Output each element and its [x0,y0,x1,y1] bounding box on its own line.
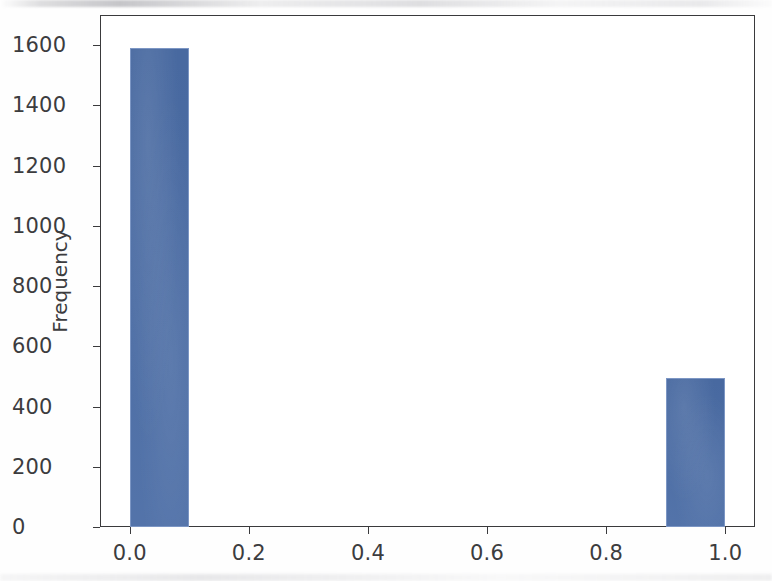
x-axis-tick-label: 0.4 [351,541,385,565]
y-axis-label: Frequency [48,229,72,332]
y-axis-label-wrapper: Frequency [0,0,40,581]
x-axis-tick-label: 1.0 [708,541,742,565]
figure-canvas: 02004006008001000120014001600 0.00.20.40… [0,0,772,581]
x-axis-tick-label: 0.6 [470,541,504,565]
x-axis-tick-labels: 0.00.20.40.60.81.0 [0,0,772,581]
x-axis-tick-label: 0.0 [113,541,147,565]
x-axis-tick-label: 0.8 [589,541,623,565]
x-axis-tick-label: 0.2 [232,541,266,565]
